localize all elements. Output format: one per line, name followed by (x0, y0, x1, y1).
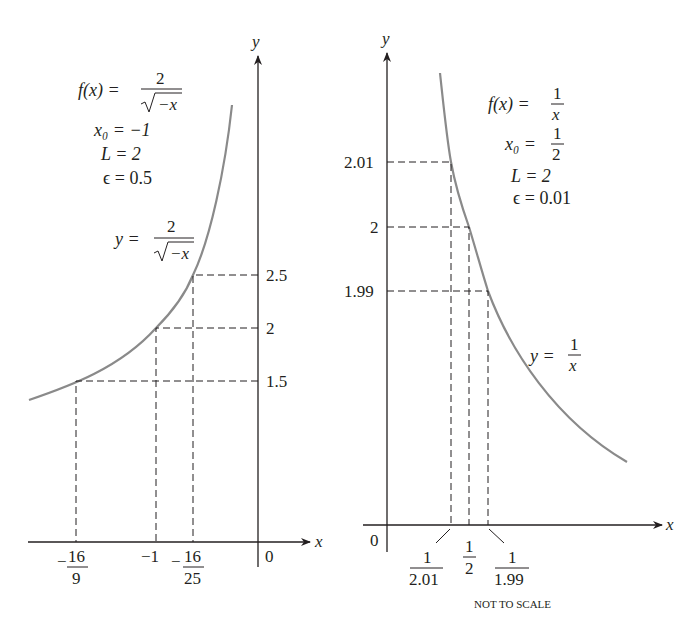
left-panel: y x 0 2.5 2 1.5 − 16 9 −1 − 16 25 f(x) = (28, 32, 323, 588)
x-tick-neg-16-9: − 16 9 (57, 547, 88, 588)
x-tick-1-over-2: 1 2 (463, 537, 476, 578)
svg-text:2: 2 (465, 559, 474, 578)
right-curve-label: y = 1 x (528, 335, 581, 375)
left-x-axis-label: x (314, 532, 323, 551)
y-tick-2-01: 2.01 (344, 153, 374, 172)
guide-1-5 (76, 381, 258, 542)
guide-2 (387, 227, 469, 525)
svg-text:1: 1 (553, 124, 562, 143)
svg-text:1: 1 (508, 548, 517, 567)
svg-text:ϵ = 0.01: ϵ = 0.01 (513, 188, 571, 208)
svg-text:25: 25 (184, 569, 201, 588)
guide-2-5 (193, 275, 258, 542)
y-tick-1-99: 1.99 (344, 282, 374, 301)
right-panel: y x 0 2.01 2 1.99 1 2.01 1 2 1 1.99 (344, 29, 674, 610)
svg-text:x₀ = −1: x₀ = −1 (93, 120, 151, 140)
y-tick-2: 2 (370, 218, 379, 237)
left-y-axis-label: y (250, 32, 260, 51)
svg-text:−: − (171, 552, 181, 571)
left-curve-label: y = 2 −x (113, 217, 194, 263)
svg-text:1: 1 (465, 537, 474, 556)
svg-text:−: − (57, 552, 67, 571)
svg-text:2: 2 (156, 69, 165, 88)
svg-text:−x: −x (158, 95, 177, 114)
svg-text:2: 2 (167, 217, 176, 236)
right-origin-label: 0 (370, 531, 379, 550)
svg-text:f(x) =: f(x) = (78, 80, 120, 101)
svg-text:1: 1 (553, 84, 562, 103)
y-tick-2-5: 2.5 (266, 266, 287, 285)
svg-text:x: x (568, 356, 577, 375)
left-function-definition: f(x) = 2 −x x₀ = −1 L = 2 ϵ = 0.5 (78, 69, 182, 188)
right-function-definition: f(x) = 1 x x₀ = 1 2 L = 2 ϵ = 0.01 (488, 84, 571, 208)
svg-text:y =: y = (113, 229, 140, 249)
guide-1-99 (387, 291, 488, 525)
guide-2-01 (387, 162, 451, 525)
svg-text:y =: y = (528, 346, 555, 366)
svg-text:2.01: 2.01 (409, 570, 439, 589)
svg-text:x₀ =: x₀ = (504, 134, 536, 154)
right-y-axis-label: y (380, 29, 390, 48)
x-tick-1-over-1-99: 1 1.99 (494, 548, 529, 589)
svg-text:2: 2 (552, 145, 561, 164)
y-tick-1-5: 1.5 (266, 372, 287, 391)
svg-text:16: 16 (68, 547, 85, 566)
right-x-axis-label: x (665, 515, 674, 534)
svg-text:x: x (551, 105, 560, 124)
svg-text:L = 2: L = 2 (510, 166, 551, 186)
svg-text:16: 16 (184, 547, 201, 566)
svg-text:f(x) =: f(x) = (488, 94, 530, 115)
svg-text:L = 2: L = 2 (100, 144, 141, 164)
x-tick-1-over-2-01: 1 2.01 (409, 548, 443, 589)
svg-text:1.99: 1.99 (494, 570, 524, 589)
svg-text:1: 1 (570, 335, 579, 354)
svg-text:1: 1 (423, 548, 432, 567)
left-origin-label: 0 (265, 547, 274, 566)
svg-text:ϵ = 0.5: ϵ = 0.5 (103, 168, 152, 188)
svg-text:−x: −x (170, 244, 189, 263)
not-to-scale-note: NOT TO SCALE (474, 598, 551, 610)
guide-2 (156, 328, 258, 542)
svg-text:9: 9 (72, 569, 81, 588)
y-tick-2: 2 (266, 319, 275, 338)
epsilon-delta-diagram: y x 0 2.5 2 1.5 − 16 9 −1 − 16 25 f(x) = (0, 0, 686, 637)
x-tick-neg-16-25: − 16 25 (171, 547, 204, 588)
right-curve (440, 73, 627, 462)
x-tick-neg-1: −1 (141, 547, 159, 566)
